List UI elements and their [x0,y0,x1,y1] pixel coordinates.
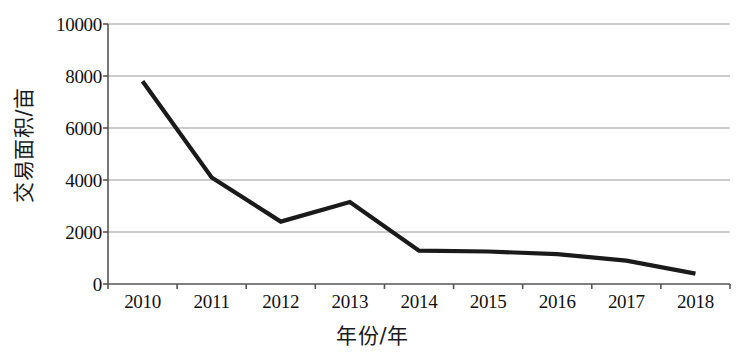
series-line-交易面积 [143,81,696,273]
line-chart: 交易面积/亩 0200040006000800010000 2010201120… [0,0,745,361]
x-tick-label-2010: 2010 [103,291,183,313]
x-axis-tick-labels: 201020112012201320142015201620172018 [0,291,745,321]
x-tick-label-2012: 2012 [241,291,321,313]
x-tick-label-2011: 2011 [172,291,252,313]
x-tick-label-2015: 2015 [448,291,528,313]
data-series-line [143,81,696,273]
x-tick-label-2016: 2016 [517,291,597,313]
x-axis-title-label: 年份/年 [336,324,408,348]
x-tick-label-2018: 2018 [655,291,735,313]
x-tick-label-2014: 2014 [379,291,459,313]
x-axis-title: 年份/年 [0,319,745,349]
x-tick-label-2017: 2017 [586,291,666,313]
gridlines [108,24,730,232]
x-tick-label-2013: 2013 [310,291,390,313]
